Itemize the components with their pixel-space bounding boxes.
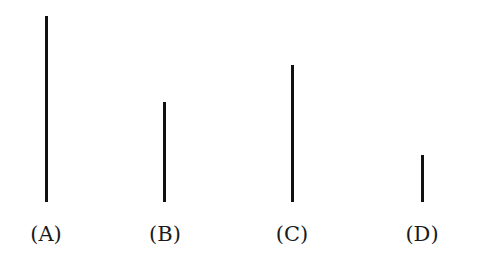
segment-c [291,65,294,202]
segment-a [45,16,48,202]
label-c: (C) [252,222,332,246]
segment-d [421,155,424,202]
segment-b [163,102,166,202]
label-a: (A) [6,222,86,246]
label-d: (D) [382,222,462,246]
label-b: (B) [125,222,205,246]
